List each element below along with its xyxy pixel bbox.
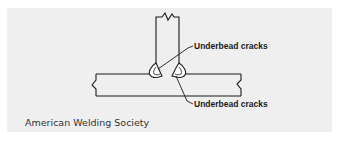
base-plate-right-break [237,74,241,96]
lower-underbead-cracks-label: Underbead cracks [194,99,268,109]
upper-callout-leader [158,46,193,69]
left-fillet-weld [149,63,162,77]
vertical-plate [156,13,179,67]
figure-credit: American Welding Society [25,117,149,128]
base-plate-left-break [92,74,96,96]
right-fillet-weld [172,63,186,77]
upper-underbead-cracks-label: Underbead cracks [194,41,268,51]
lower-callout-leader [176,76,193,104]
